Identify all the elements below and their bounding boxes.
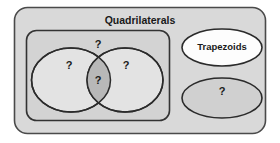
inner-top-question-label: ?: [95, 38, 102, 50]
trapezoids-label: Trapezoids: [197, 41, 247, 52]
intersection-question-label: ?: [95, 74, 102, 86]
page-title: Quadrilaterals: [105, 14, 176, 26]
unknown-ellipse-question-label: ?: [219, 85, 226, 97]
right-ellipse-question-label: ?: [123, 59, 130, 71]
left-ellipse-question-label: ?: [66, 59, 73, 71]
diagram-canvas: Quadrilaterals ? ? ? ? Trapezoids ?: [0, 0, 280, 143]
